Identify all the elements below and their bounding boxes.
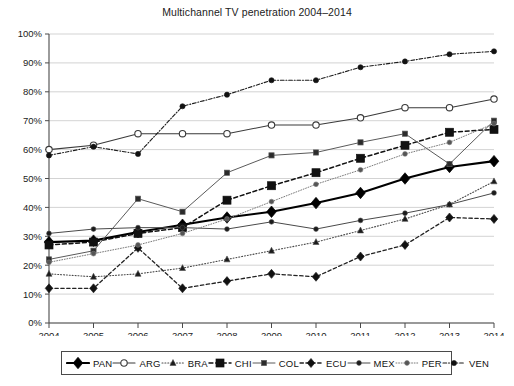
data-point bbox=[73, 357, 83, 369]
data-point bbox=[90, 238, 98, 246]
data-point bbox=[216, 359, 224, 367]
legend-item-ecu[interactable]: ECU bbox=[299, 357, 347, 369]
legend-swatch-ecu-icon bbox=[299, 357, 323, 369]
data-point bbox=[447, 202, 452, 207]
y-tick-label: 30% bbox=[23, 231, 43, 242]
y-tick-label: 80% bbox=[23, 86, 43, 97]
series-layer bbox=[44, 49, 499, 293]
x-tick-label: 2012 bbox=[394, 330, 415, 336]
data-point bbox=[47, 231, 52, 236]
data-point bbox=[223, 196, 231, 204]
data-point bbox=[224, 256, 230, 262]
data-point bbox=[404, 361, 409, 366]
data-point bbox=[403, 152, 408, 157]
x-tick-label: 2013 bbox=[439, 330, 460, 336]
data-point bbox=[223, 277, 231, 286]
series-arg bbox=[46, 96, 497, 153]
data-point bbox=[313, 78, 318, 83]
data-point bbox=[46, 270, 52, 276]
page-title: Multichannel TV penetration 2004–2014 bbox=[0, 6, 514, 18]
data-point bbox=[491, 49, 496, 54]
data-point bbox=[224, 131, 230, 137]
legend-label: ECU bbox=[326, 358, 347, 369]
series-chi bbox=[45, 125, 498, 249]
data-point bbox=[179, 131, 185, 137]
data-point bbox=[356, 187, 366, 199]
data-point bbox=[358, 167, 363, 172]
legend-swatch-ven-icon bbox=[442, 357, 466, 369]
legend-item-ven[interactable]: VEN bbox=[442, 357, 489, 369]
data-point bbox=[261, 360, 266, 365]
legend-label: COL bbox=[279, 358, 299, 369]
data-point bbox=[489, 155, 499, 167]
data-point bbox=[402, 131, 407, 136]
data-point bbox=[403, 211, 408, 216]
y-tick-label: 10% bbox=[23, 289, 43, 300]
x-tick-label: 2004 bbox=[38, 330, 59, 336]
data-point bbox=[269, 219, 274, 224]
data-point bbox=[47, 260, 52, 265]
data-point bbox=[313, 150, 318, 155]
data-point bbox=[135, 131, 141, 137]
data-point bbox=[269, 153, 274, 158]
data-point bbox=[268, 122, 274, 128]
data-point bbox=[225, 217, 230, 222]
data-point bbox=[135, 196, 140, 201]
data-point bbox=[269, 199, 274, 204]
legend-swatch-chi-icon bbox=[208, 357, 232, 369]
series-line bbox=[49, 181, 494, 276]
data-point bbox=[358, 140, 363, 145]
data-point bbox=[136, 225, 141, 230]
data-point bbox=[91, 144, 96, 149]
data-point bbox=[400, 173, 410, 185]
legend-item-pan[interactable]: PAN bbox=[66, 357, 112, 369]
legend-item-arg[interactable]: ARG bbox=[112, 357, 160, 369]
data-point bbox=[314, 227, 319, 232]
legend-item-per[interactable]: PER bbox=[395, 357, 442, 369]
legend-label: VEN bbox=[469, 358, 489, 369]
data-point bbox=[269, 78, 274, 83]
data-point bbox=[224, 170, 229, 175]
legend-label: MEX bbox=[374, 358, 395, 369]
data-point bbox=[225, 227, 230, 232]
data-point bbox=[46, 153, 51, 158]
data-point bbox=[45, 284, 53, 293]
data-point bbox=[358, 227, 364, 233]
legend-swatch-pan-icon bbox=[66, 357, 90, 369]
x-axis: 2004200520062007200820092010201120122013… bbox=[38, 323, 504, 336]
line-chart-svg: 0%10%20%30%40%50%60%70%80%90%100% 200420… bbox=[0, 24, 514, 336]
y-tick-label: 50% bbox=[23, 173, 43, 184]
series-line bbox=[49, 124, 494, 263]
data-point bbox=[45, 241, 53, 249]
data-point bbox=[312, 169, 320, 177]
y-tick-label: 70% bbox=[23, 115, 43, 126]
x-tick-label: 2008 bbox=[216, 330, 237, 336]
data-point bbox=[492, 121, 497, 126]
data-point bbox=[180, 209, 185, 214]
y-tick-label: 0% bbox=[28, 317, 42, 328]
chart-page: Multichannel TV penetration 2004–2014 0%… bbox=[0, 0, 514, 386]
legend-item-col[interactable]: COL bbox=[252, 357, 299, 369]
legend-swatch-bra-icon bbox=[161, 357, 185, 369]
data-point bbox=[313, 122, 319, 128]
y-tick-label: 60% bbox=[23, 144, 43, 155]
legend-swatch-arg-icon bbox=[112, 357, 136, 369]
legend-item-bra[interactable]: BRA bbox=[161, 357, 208, 369]
legend-item-mex[interactable]: MEX bbox=[347, 357, 395, 369]
data-point bbox=[447, 161, 452, 166]
x-tick-label: 2014 bbox=[483, 330, 504, 336]
data-point bbox=[180, 231, 185, 236]
data-point bbox=[356, 361, 361, 366]
data-point bbox=[135, 151, 140, 156]
series-per bbox=[47, 121, 497, 265]
data-point bbox=[490, 214, 498, 223]
data-point bbox=[357, 115, 363, 121]
data-point bbox=[446, 128, 454, 136]
data-point bbox=[491, 96, 497, 102]
data-point bbox=[492, 191, 497, 196]
data-point bbox=[451, 360, 456, 365]
data-point bbox=[402, 216, 408, 222]
data-point bbox=[358, 65, 363, 70]
legend-swatch-col-icon bbox=[252, 357, 276, 369]
legend-item-chi[interactable]: CHI bbox=[208, 357, 252, 369]
